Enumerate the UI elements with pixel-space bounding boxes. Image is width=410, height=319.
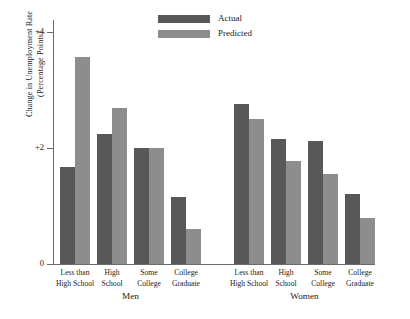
legend-swatch-actual-icon [158, 15, 210, 23]
bar-men-some-college-predicted [149, 148, 164, 264]
bar-women-some-college-actual [308, 141, 323, 264]
bar-women-less-than-high-school-predicted [249, 119, 264, 264]
bar-men-less-than-high-school-predicted [75, 57, 90, 264]
category-label-line: Graduate [329, 279, 391, 290]
group-label-men: Men [91, 291, 171, 301]
legend: Actual Predicted [158, 12, 252, 42]
category-label-line: Graduate [155, 279, 217, 290]
bar-women-college-graduate-actual [345, 194, 360, 264]
x-axis-line [53, 264, 375, 265]
y-tick-0 [47, 264, 53, 265]
category-label-men-college-graduate: CollegeGraduate [155, 268, 217, 289]
category-label-line: College [155, 268, 217, 279]
bar-men-some-college-actual [134, 148, 149, 264]
bar-men-college-graduate-actual [171, 197, 186, 264]
legend-item-actual: Actual [158, 12, 252, 25]
bar-women-college-graduate-predicted [360, 218, 375, 264]
plot-area [54, 20, 375, 264]
legend-item-predicted: Predicted [158, 27, 252, 40]
bar-men-high-school-predicted [112, 108, 127, 264]
bar-men-high-school-actual [97, 134, 112, 264]
legend-label-actual: Actual [218, 14, 242, 23]
bar-women-high-school-actual [271, 139, 286, 264]
category-label-women-college-graduate: CollegeGraduate [329, 268, 391, 289]
group-label-women: Women [265, 291, 345, 301]
bar-women-less-than-high-school-actual [234, 104, 249, 264]
y-tick-+4 [47, 32, 53, 33]
bar-men-college-graduate-predicted [186, 229, 201, 264]
legend-swatch-predicted-icon [158, 30, 210, 38]
unemployment-bar-chart: Change in Unemployment Rate (Percentage … [0, 0, 410, 319]
y-tick-label-0: 0 [4, 259, 44, 268]
y-tick-label-+2: +2 [4, 143, 44, 152]
bar-women-some-college-predicted [323, 174, 338, 264]
y-tick-+2 [47, 148, 53, 149]
category-label-line: College [329, 268, 391, 279]
y-tick-label-+4: +4 [4, 27, 44, 36]
bar-men-less-than-high-school-actual [60, 167, 75, 264]
bar-women-high-school-predicted [286, 161, 301, 264]
legend-label-predicted: Predicted [218, 29, 252, 38]
